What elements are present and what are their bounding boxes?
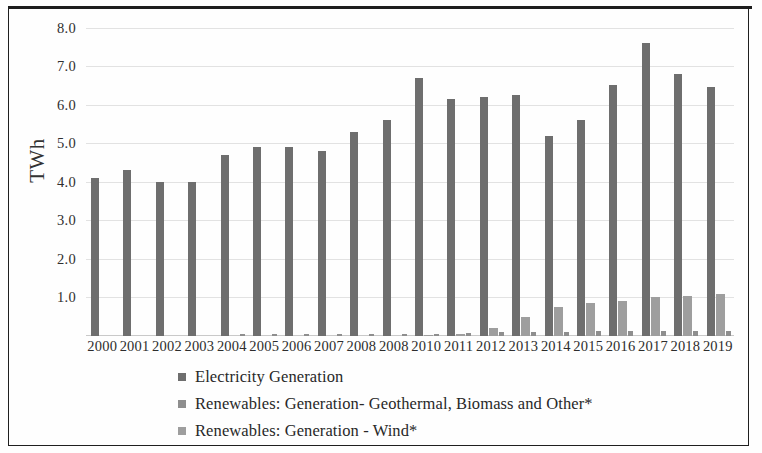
bar-renewables-wind bbox=[424, 335, 433, 336]
legend-swatch-icon bbox=[178, 373, 186, 381]
bar-renewables-wind bbox=[521, 317, 530, 336]
legend-item-label: Electricity Generation bbox=[195, 367, 343, 387]
chart-page: TWh 8.07.06.05.04.03.02.01.0 20002001200… bbox=[0, 0, 762, 453]
bar-group bbox=[216, 16, 248, 336]
bar-group bbox=[313, 16, 345, 336]
bar-group bbox=[183, 16, 215, 336]
legend-item-0[interactable]: Electricity Generation bbox=[178, 363, 718, 390]
bar-group bbox=[378, 16, 410, 336]
bar-renewables-geothermal-biomass-other bbox=[466, 333, 471, 336]
bar-series-container bbox=[86, 16, 734, 336]
bar-electricity-generation bbox=[188, 182, 196, 336]
bar-electricity-generation bbox=[480, 97, 488, 336]
y-axis-tick-4-0: 4.0 bbox=[34, 173, 76, 190]
bar-group bbox=[702, 16, 734, 336]
bar-renewables-geothermal-biomass-other bbox=[434, 334, 439, 336]
bar-renewables-geothermal-biomass-other bbox=[369, 334, 374, 336]
bar-renewables-geothermal-biomass-other bbox=[596, 331, 601, 336]
x-axis-tick-19: 2019 bbox=[697, 338, 739, 355]
y-axis-tick-1-0: 1.0 bbox=[34, 289, 76, 306]
y-axis-tick-5-0: 5.0 bbox=[34, 135, 76, 152]
bar-group bbox=[118, 16, 150, 336]
bar-group bbox=[410, 16, 442, 336]
plot-area bbox=[86, 16, 734, 336]
bar-group bbox=[86, 16, 118, 336]
bar-electricity-generation bbox=[447, 99, 455, 336]
bar-renewables-wind bbox=[456, 334, 465, 336]
bar-renewables-geothermal-biomass-other bbox=[726, 331, 731, 336]
bar-electricity-generation bbox=[642, 43, 650, 336]
bar-electricity-generation bbox=[383, 120, 391, 336]
bar-renewables-wind bbox=[683, 296, 692, 336]
bar-electricity-generation bbox=[318, 151, 326, 336]
bar-group bbox=[345, 16, 377, 336]
bar-group bbox=[669, 16, 701, 336]
bar-group bbox=[604, 16, 636, 336]
bar-electricity-generation bbox=[221, 155, 229, 336]
bar-group bbox=[151, 16, 183, 336]
bar-renewables-geothermal-biomass-other bbox=[337, 334, 342, 336]
bar-electricity-generation bbox=[156, 182, 164, 336]
legend-item-2[interactable]: Renewables: Generation - Wind* bbox=[178, 417, 718, 444]
bar-group bbox=[442, 16, 474, 336]
bar-renewables-wind bbox=[651, 297, 660, 336]
bar-renewables-wind bbox=[716, 294, 725, 336]
bar-electricity-generation bbox=[577, 120, 585, 336]
bar-renewables-geothermal-biomass-other bbox=[499, 332, 504, 336]
bar-group bbox=[637, 16, 669, 336]
legend-item-label: Renewables: Generation - Wind* bbox=[195, 421, 417, 441]
y-axis-tick-7-0: 7.0 bbox=[34, 58, 76, 75]
y-axis-tick-3-0: 3.0 bbox=[34, 212, 76, 229]
y-axis-tick-8-0: 8.0 bbox=[34, 19, 76, 36]
legend-swatch-icon bbox=[178, 427, 186, 435]
bar-renewables-geothermal-biomass-other bbox=[304, 334, 309, 336]
bar-group bbox=[280, 16, 312, 336]
bar-group bbox=[540, 16, 572, 336]
x-axis-tick-labels: 2000200120022003200420052006200720082008… bbox=[86, 338, 734, 360]
legend-item-1[interactable]: Renewables: Generation- Geothermal, Biom… bbox=[178, 390, 718, 417]
bar-electricity-generation bbox=[609, 85, 617, 336]
bar-group bbox=[475, 16, 507, 336]
bar-electricity-generation bbox=[285, 147, 293, 336]
bar-electricity-generation bbox=[350, 132, 358, 336]
bar-renewables-geothermal-biomass-other bbox=[240, 334, 245, 336]
chart-legend: Electricity GenerationRenewables: Genera… bbox=[178, 363, 718, 444]
y-axis-tick-labels: 8.07.06.05.04.03.02.01.0 bbox=[34, 0, 76, 340]
bar-renewables-wind bbox=[618, 301, 627, 336]
bar-electricity-generation bbox=[123, 170, 131, 336]
bar-electricity-generation bbox=[707, 87, 715, 336]
bar-electricity-generation bbox=[253, 147, 261, 336]
bar-renewables-geothermal-biomass-other bbox=[693, 331, 698, 336]
bar-renewables-wind bbox=[586, 303, 595, 336]
legend-swatch-icon bbox=[178, 400, 186, 408]
y-axis-tick-2-0: 2.0 bbox=[34, 250, 76, 267]
bar-electricity-generation bbox=[512, 95, 520, 336]
bar-group bbox=[507, 16, 539, 336]
legend-item-label: Renewables: Generation- Geothermal, Biom… bbox=[195, 394, 593, 414]
bar-renewables-wind bbox=[489, 328, 498, 336]
bar-electricity-generation bbox=[545, 136, 553, 336]
y-axis-tick-6-0: 6.0 bbox=[34, 96, 76, 113]
bar-group bbox=[248, 16, 280, 336]
bar-chart: TWh 8.07.06.05.04.03.02.01.0 20002001200… bbox=[0, 0, 762, 453]
bar-renewables-geothermal-biomass-other bbox=[628, 331, 633, 336]
bar-electricity-generation bbox=[91, 178, 99, 336]
bar-renewables-wind bbox=[554, 307, 563, 336]
bar-renewables-geothermal-biomass-other bbox=[661, 331, 666, 336]
bar-renewables-geothermal-biomass-other bbox=[531, 332, 536, 336]
bar-electricity-generation bbox=[674, 74, 682, 336]
bar-electricity-generation bbox=[415, 78, 423, 336]
bar-renewables-geothermal-biomass-other bbox=[564, 332, 569, 336]
bar-renewables-geothermal-biomass-other bbox=[402, 334, 407, 336]
bar-group bbox=[572, 16, 604, 336]
bar-renewables-geothermal-biomass-other bbox=[272, 334, 277, 336]
